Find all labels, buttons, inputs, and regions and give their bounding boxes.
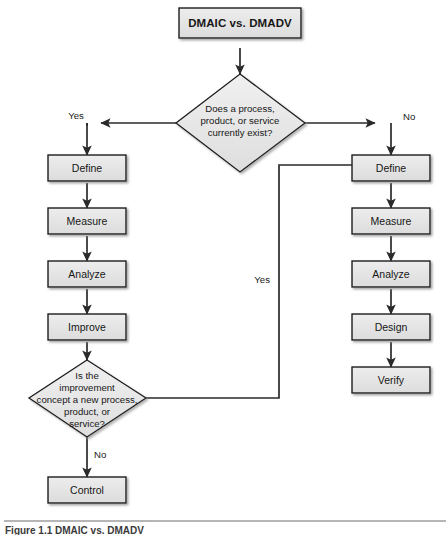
node-measure-right-label: Measure [371, 215, 412, 227]
node-title-label: DMAIC vs. DMADV [188, 17, 292, 29]
decision-two-line2: improvement [59, 382, 115, 393]
node-design-right: Design [352, 314, 430, 340]
decision-two-line5: service? [69, 418, 105, 429]
node-analyze-right: Analyze [352, 261, 430, 287]
decision-two-line4: product, or [64, 406, 111, 417]
decision-one-no-label: No [403, 111, 415, 122]
node-analyze-left-label: Analyze [68, 268, 106, 280]
decision-two-line3: concept a new process, [37, 394, 138, 405]
decision-one-line3: currently exist? [208, 127, 273, 138]
node-verify-right: Verify [352, 367, 430, 393]
figure-caption: Figure 1.1 DMAIC vs. DMADV [5, 525, 144, 535]
node-define-right: Define [352, 155, 430, 181]
node-improve-left-label: Improve [68, 321, 106, 333]
flowchart-figure: DMAIC vs. DMADV Does a process, product,… [0, 0, 448, 535]
decision-one-yes-label: Yes [68, 110, 84, 121]
node-measure-right: Measure [352, 208, 430, 234]
node-analyze-right-label: Analyze [372, 268, 410, 280]
decision-one-line2: product, or service [201, 115, 280, 126]
node-define-right-label: Define [376, 162, 407, 174]
node-control-left: Control [48, 477, 126, 503]
node-define-left: Define [48, 155, 126, 181]
node-improve-left: Improve [48, 314, 126, 340]
node-verify-right-label: Verify [378, 374, 405, 386]
decision-two-yes-label: Yes [254, 274, 270, 285]
node-measure-left: Measure [48, 208, 126, 234]
node-analyze-left: Analyze [48, 261, 126, 287]
flowchart-canvas: DMAIC vs. DMADV Does a process, product,… [0, 0, 448, 535]
node-decision-two: Is the improvement concept a new process… [29, 360, 146, 437]
node-decision-one: Does a process, product, or service curr… [176, 74, 305, 172]
decision-two-no-label: No [94, 449, 106, 460]
node-control-left-label: Control [70, 484, 104, 496]
node-measure-left-label: Measure [67, 215, 108, 227]
decision-two-line1: Is the [75, 370, 98, 381]
node-define-left-label: Define [72, 162, 103, 174]
decision-one-line1: Does a process, [205, 103, 274, 114]
node-design-right-label: Design [375, 321, 408, 333]
node-title-box: DMAIC vs. DMADV [179, 8, 301, 38]
